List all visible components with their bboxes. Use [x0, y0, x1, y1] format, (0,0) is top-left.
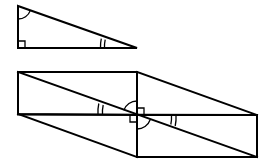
- triangle-outline: [18, 6, 137, 48]
- double-arc-left-inner: [102, 105, 103, 115]
- double-arc-left-outer: [98, 104, 99, 115]
- center-arc-lower-right: [137, 120, 150, 129]
- double-arc-outer: [100, 39, 101, 48]
- small-right-triangle: [18, 6, 137, 48]
- geometry-diagram: [0, 0, 271, 167]
- double-arc-right-inner: [171, 115, 172, 125]
- double-arc-inner: [104, 40, 105, 48]
- angle-arc-top: [18, 10, 30, 19]
- right-angle-marker: [18, 41, 25, 48]
- center-right-angle-lower: [130, 115, 137, 122]
- lower-slant-edge: [18, 114, 137, 157]
- large-composite-figure: [18, 72, 257, 157]
- double-arc-right-outer: [175, 115, 176, 126]
- upper-slant-edge: [137, 72, 257, 115]
- center-arc-upper-left: [124, 101, 137, 110]
